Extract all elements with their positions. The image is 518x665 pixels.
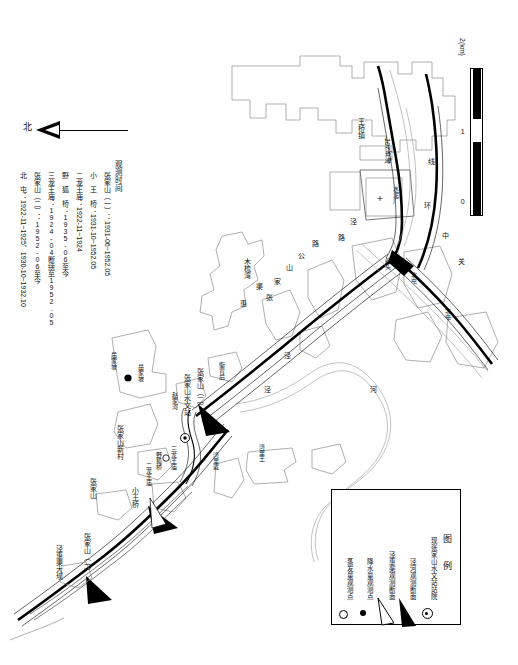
legend-item-evaporation-point: 蒸发量观测点 xyxy=(334,490,352,626)
observation-station: 张家山（一） xyxy=(104,172,111,214)
label-yehuqiao: 野狐桥 xyxy=(155,452,161,470)
observation-row: 野 狐 桥：1935-06至今 xyxy=(62,172,69,277)
legend-item-label: 现张家山水文站站院 xyxy=(430,537,437,600)
scale-tick-2: 2(km) xyxy=(459,38,466,56)
label-yuejiapo: 岳家坡 xyxy=(137,364,143,382)
label-guan: 关 xyxy=(458,258,465,265)
label-qu: 渠 xyxy=(256,283,263,290)
label-zhangjiashan-1: 张家山（一） xyxy=(84,533,91,575)
label-houjiapo: 后家坡 xyxy=(110,352,116,370)
label-jing-b: 泾 xyxy=(284,352,291,359)
observation-sep: ： xyxy=(90,207,97,214)
label-beitun-a: 北屯 xyxy=(410,272,416,284)
legend-item-river-section: 泾河观测断面 xyxy=(397,490,415,626)
label-mushuwan: 木梳湾 xyxy=(244,258,251,279)
label-jing-a: 泾 xyxy=(264,386,271,393)
label-wangqiao-town: 王桥镇 xyxy=(358,118,365,139)
observation-period: 1935-06至今 xyxy=(62,214,69,277)
label-gong: 公 xyxy=(298,252,305,259)
label-provincial-road-107: 107省道 xyxy=(382,138,392,164)
label-jia: 家 xyxy=(274,278,281,285)
observation-period: 1952-06至今 xyxy=(34,221,41,284)
north-arrow-label: 北 xyxy=(22,122,31,131)
label-zhang: 张 xyxy=(266,294,273,301)
observation-station: 张家山（二） xyxy=(34,172,41,214)
label-lu: 路 xyxy=(312,240,319,247)
label-xian: 线 xyxy=(428,158,435,165)
filled-wedge-icon xyxy=(395,596,419,630)
label-zhangjiashan: 张家山 xyxy=(90,478,97,499)
label-wanliwei: 湾里崴 xyxy=(212,452,218,470)
filled-dot-icon xyxy=(354,602,372,622)
observation-sep: ： xyxy=(34,214,41,221)
legend-box: 图 例 现张家山水文站站院 泾河观测断面 泾惠渠观测断面 降水量观测点 xyxy=(331,489,461,625)
legend-item-precipitation-point: 降水量观测点 xyxy=(354,490,372,626)
label-lu-left: 路 xyxy=(338,234,345,241)
observation-station: 三龙王庙 xyxy=(48,172,55,200)
north-arrow-head xyxy=(36,121,60,139)
hollow-circle-icon xyxy=(334,602,352,622)
label-shan: 山 xyxy=(286,264,293,271)
observation-period: 1931-06~1952.05 xyxy=(104,221,111,276)
observation-station: 野 狐 桥 xyxy=(62,172,69,207)
observation-sep: ： xyxy=(20,193,27,200)
hollow-wedge-icon xyxy=(375,596,397,628)
observation-sep: ： xyxy=(76,200,83,207)
label-zhangjiashan-xincun: 张家山新村 xyxy=(117,425,124,460)
observation-station: 小 王 桥 xyxy=(90,172,97,207)
label-jing-left: 泾 xyxy=(350,218,357,225)
observation-sep: ： xyxy=(48,200,55,207)
label-jinghuiqu-dam: 泾惠渠大坝 xyxy=(56,545,63,580)
observation-row: 二龙王庙：1922-11~1924 xyxy=(76,172,83,252)
observation-row: 张家山（一）：1931-06~1952.05 xyxy=(104,172,111,276)
label-zhaojiahe: 赵家河 xyxy=(171,392,177,410)
label-erlongwangmiao: 二龙王庙 xyxy=(145,462,151,486)
label-xiaowangqiao: 小王桥 xyxy=(132,487,139,508)
observation-period: 1924-04断续至1952.05 xyxy=(48,207,55,326)
legend-title: 图 例 xyxy=(441,534,454,574)
north-arrow xyxy=(36,118,128,144)
scale-tick-1: 1 xyxy=(459,128,466,135)
label-zhangjiashan-2: 张家山（二） xyxy=(197,368,204,410)
observation-row: 北 屯：1922-11~1925、1930-10~1932.10 xyxy=(20,172,27,307)
label-chuantou: 船头 xyxy=(384,258,390,270)
legend-item-label: 泾惠渠观测断面 xyxy=(388,551,395,600)
observation-period: 1931-10~1952.05 xyxy=(90,214,97,269)
north-arrow-shaft xyxy=(54,130,128,131)
scale-tick-0: 0 xyxy=(459,198,466,205)
observation-sep: ： xyxy=(104,214,111,221)
label-he: 河 xyxy=(370,386,377,393)
label-zhong: 中 xyxy=(442,232,449,239)
observation-row: 小 王 桥：1931-10~1952.05 xyxy=(90,172,97,269)
label-beitun-b: 北屯 xyxy=(444,308,450,320)
label-yabeihou: 衙背后 xyxy=(218,362,224,380)
observation-time-heading: 观测时间 xyxy=(112,160,123,192)
observation-period: 1922-11~1925、1930-10~1932.10 xyxy=(20,200,27,307)
label-zhangjiashan-station: 张家山水文站 xyxy=(184,374,191,416)
label-wanliwang: 湾里王 xyxy=(258,444,264,462)
label-cement-factory: 水泥厂 xyxy=(392,186,398,204)
observation-time-block: 观测时间 张家山（一）：1931-06~1952.05 小 王 桥：1931-1… xyxy=(8,150,138,360)
observation-sep: ： xyxy=(62,207,69,214)
observation-station: 二龙王庙 xyxy=(76,172,83,200)
legend-item-label: 降水量观测点 xyxy=(366,558,373,600)
legend-item-station: 现张家山水文站站院 xyxy=(418,490,436,626)
label-sanlongwangmiao: 三龙王庙 xyxy=(170,446,176,470)
observation-station: 北 屯 xyxy=(20,172,27,193)
label-huan: 环 xyxy=(424,202,431,209)
legend-item-canal-section: 泾惠渠观测断面 xyxy=(376,490,394,626)
observation-row: 张家山（二）：1952-06至今 xyxy=(34,172,41,284)
label-hui: 惠 xyxy=(240,300,247,307)
legend-item-label: 蒸发量观测点 xyxy=(346,558,353,600)
observation-row: 三龙王庙：1924-04断续至1952.05 xyxy=(48,172,55,326)
observation-period: 1922-11~1924 xyxy=(76,207,83,252)
circle-dot-icon xyxy=(418,602,436,622)
legend-item-label: 泾河观测断面 xyxy=(409,558,416,600)
scale-bar xyxy=(470,68,483,216)
map-canvas: 北 观测时间 张家山（一）：1931-06~1952.05 小 王 桥：1931… xyxy=(0,0,518,665)
